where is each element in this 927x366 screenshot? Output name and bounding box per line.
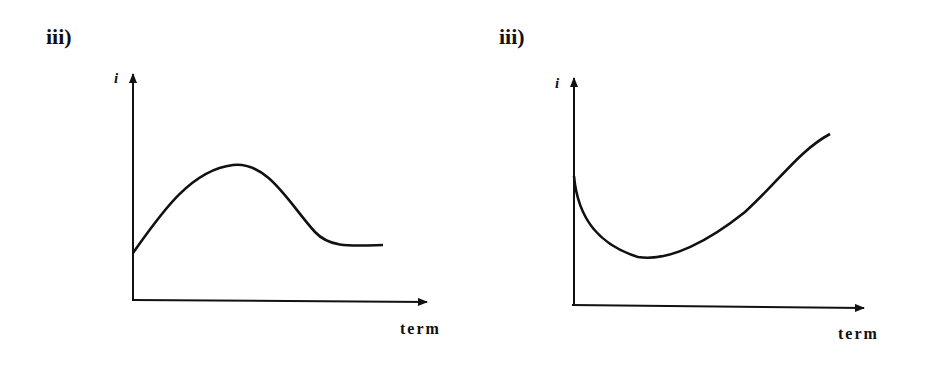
panel-2-curve	[574, 134, 830, 258]
panel-1-x-axis-arrow-icon	[132, 300, 427, 302]
diagram-canvas	[0, 0, 927, 366]
panel-2-x-axis-arrow-icon	[572, 305, 864, 308]
panel-2-axes	[572, 78, 864, 308]
panel-1-curve	[133, 165, 383, 253]
